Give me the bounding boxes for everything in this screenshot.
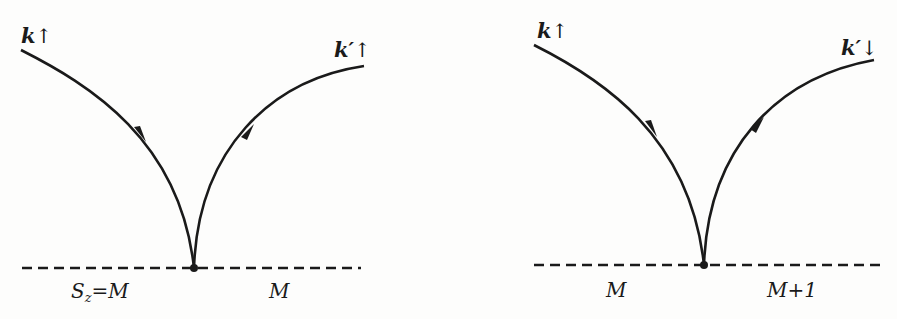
figure-page: k↑ k′↑ Sz=M M k↑ k′↓ M M+1	[0, 0, 897, 319]
right-impurity-left-label: M	[606, 280, 626, 300]
right-outgoing-momentum: k′	[841, 35, 861, 60]
right-outgoing-electron-line	[704, 60, 874, 265]
spin-up-icon: ↑	[552, 19, 569, 43]
spin-subscript: z	[85, 290, 92, 305]
left-vertex-dot	[190, 264, 198, 272]
left-outgoing-electron-line	[194, 66, 364, 268]
left-incoming-label: k↑	[21, 25, 52, 46]
spin-symbol: S	[71, 279, 85, 303]
left-impurity-left-label: Sz=M	[71, 281, 129, 304]
right-impurity-right-label: M+1	[767, 280, 817, 300]
left-outgoing-label: k′↑	[334, 39, 371, 60]
right-vertex-dot	[700, 261, 708, 269]
right-diagram	[534, 45, 880, 269]
right-incoming-label: k↑	[537, 20, 568, 41]
left-incoming-electron-line	[21, 50, 194, 268]
left-diagram	[21, 50, 364, 272]
spin-up-icon: ↑	[36, 24, 53, 48]
left-impurity-right-label: M	[269, 281, 289, 301]
right-incoming-momentum: k	[537, 18, 552, 43]
spin-down-icon: ↓	[861, 36, 878, 60]
right-outgoing-label: k′↓	[841, 37, 878, 58]
right-outgoing-arrow-icon	[750, 117, 764, 133]
spin-value: =M	[92, 279, 129, 303]
diagram-lines	[0, 0, 897, 319]
spin-up-icon: ↑	[354, 38, 371, 62]
left-incoming-momentum: k	[21, 23, 36, 48]
left-outgoing-momentum: k′	[334, 37, 354, 62]
right-incoming-electron-line	[534, 45, 704, 265]
